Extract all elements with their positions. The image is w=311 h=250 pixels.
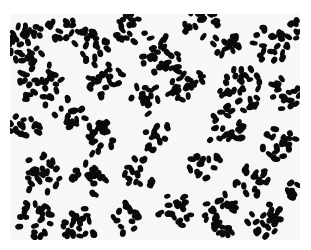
cell [25, 156, 34, 164]
cell [199, 32, 208, 42]
cell [15, 223, 24, 230]
cell [10, 48, 14, 57]
cell [261, 231, 271, 240]
cell [129, 37, 139, 47]
cell [141, 30, 149, 37]
cell [53, 86, 60, 95]
cell [253, 31, 261, 39]
cell [242, 188, 251, 198]
cell [28, 64, 37, 73]
cell [102, 84, 110, 91]
cell [186, 92, 191, 100]
cell [284, 41, 291, 51]
cell [96, 49, 104, 58]
cell [206, 155, 211, 163]
cell [96, 123, 101, 131]
cell [219, 125, 226, 133]
cell [286, 178, 296, 187]
cell [22, 97, 30, 102]
cell [164, 193, 172, 199]
cell [119, 229, 126, 237]
cell [133, 82, 140, 92]
cell [292, 35, 300, 41]
cell [291, 135, 300, 142]
cell [249, 40, 258, 46]
cell [92, 53, 98, 62]
cell [130, 224, 139, 232]
cell [186, 14, 194, 17]
cell [252, 218, 261, 227]
cell [51, 111, 60, 120]
cell [201, 173, 211, 182]
cell [130, 154, 139, 164]
cell [46, 61, 52, 69]
cell [81, 206, 89, 212]
cell [210, 164, 218, 171]
cell [30, 222, 39, 230]
cell [44, 188, 50, 196]
cell [82, 40, 90, 50]
cell [11, 112, 20, 121]
cell [55, 27, 64, 34]
cell [270, 125, 280, 132]
cell [15, 22, 21, 31]
micrograph-image [10, 14, 300, 240]
cell [82, 159, 88, 168]
cell [140, 59, 147, 66]
cell [90, 60, 99, 69]
cell [37, 49, 46, 59]
cell [234, 96, 244, 106]
cell [58, 105, 64, 112]
cell [278, 53, 287, 63]
cell [164, 202, 172, 208]
cell [248, 210, 256, 218]
cell [206, 136, 215, 145]
cell [117, 223, 125, 231]
cell [241, 182, 247, 190]
cell [115, 207, 123, 216]
cell [271, 227, 279, 235]
cell [231, 65, 238, 73]
cell [142, 129, 150, 136]
cell [52, 180, 61, 190]
cell [191, 22, 199, 31]
cell [45, 176, 54, 183]
cell [146, 35, 155, 42]
cell [46, 220, 54, 227]
cell [202, 201, 211, 207]
cell [278, 106, 285, 111]
cell-field [10, 14, 300, 240]
cell [259, 211, 268, 220]
cell [18, 58, 26, 64]
cell [144, 109, 153, 118]
cell [17, 77, 24, 86]
cell [41, 84, 49, 93]
cell [88, 149, 96, 158]
cell [81, 114, 90, 121]
cell [127, 94, 135, 103]
cell [247, 64, 256, 74]
cell [270, 55, 279, 64]
cell [252, 94, 261, 103]
cell [269, 93, 277, 100]
cell [154, 95, 161, 105]
cell [138, 53, 147, 60]
cell [260, 144, 266, 153]
cell [70, 39, 79, 48]
cell [42, 101, 48, 108]
cell [243, 217, 252, 227]
cell [211, 126, 218, 131]
